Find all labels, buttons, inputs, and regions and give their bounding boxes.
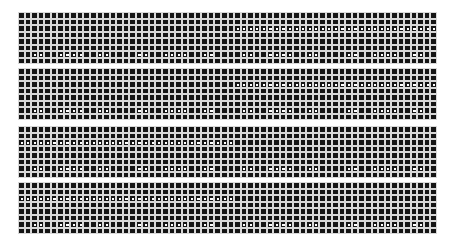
grid-block-1 — [18, 12, 437, 64]
grid-block-4 — [18, 182, 437, 234]
grid-cell — [430, 172, 437, 179]
grid-cell — [430, 114, 437, 121]
grid-block-2 — [18, 68, 437, 120]
grid-cell — [430, 228, 437, 235]
grid-block-3 — [18, 126, 437, 178]
grid-cell — [430, 58, 437, 65]
